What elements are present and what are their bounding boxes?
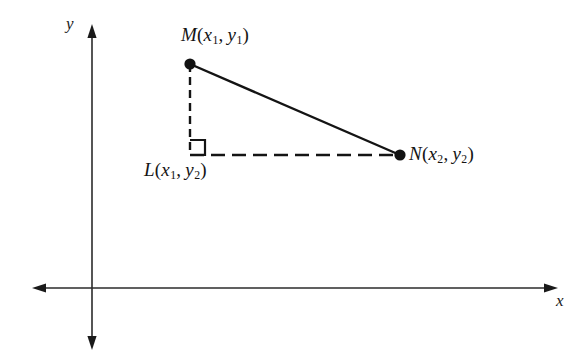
point-n-x-var: x — [428, 143, 437, 164]
point-m-label: M(x1,y1) — [181, 24, 249, 48]
y-axis-arrow-up — [87, 24, 96, 38]
distance-formula-diagram: y x M(x1,y1) L(x1,y2) N(x2,y2) — [0, 0, 588, 364]
point-n-label: N(x2,y2) — [409, 143, 474, 167]
point-l-y-subscript: 2 — [194, 169, 200, 182]
y-axis-arrow-down — [87, 336, 96, 350]
point-n-letter: N — [409, 143, 422, 164]
point-l-x-var: x — [161, 159, 170, 180]
point-l-x-subscript: 1 — [170, 169, 176, 182]
right-angle-marker-at-l — [190, 140, 205, 155]
point-n-y-var: y — [452, 143, 461, 164]
x-axis-arrow-left — [32, 283, 46, 292]
segment-mn-hypotenuse — [190, 64, 400, 155]
point-l-y-var: y — [185, 159, 194, 180]
point-n-x-subscript: 2 — [437, 153, 443, 166]
y-axis-label: y — [66, 14, 74, 34]
point-l-label: L(x1,y2) — [144, 159, 207, 183]
point-m-letter: M — [181, 24, 197, 45]
x-axis-label: x — [556, 291, 564, 311]
x-axis — [32, 283, 558, 292]
diagram-canvas — [0, 0, 588, 364]
y-axis — [87, 24, 96, 350]
point-m-x-subscript: 1 — [212, 34, 218, 47]
point-n-y-subscript: 2 — [461, 153, 467, 166]
point-m-dot — [184, 58, 195, 69]
point-m-y-var: y — [228, 24, 237, 45]
point-n-dot — [394, 149, 405, 160]
point-m-y-subscript: 1 — [236, 34, 242, 47]
point-m-x-var: x — [204, 24, 213, 45]
point-l-letter: L — [144, 159, 155, 180]
